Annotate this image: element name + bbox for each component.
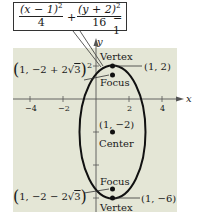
plus-sign: + — [67, 11, 76, 24]
bottom-vertex-point — [110, 196, 115, 201]
equation-box: (x − 1)2 4 + (y + 2)2 16 = 1 — [13, 2, 127, 31]
term1-denominator: 4 — [19, 17, 63, 29]
bottom-focus-label: Focus — [100, 176, 130, 187]
y-axis-label: y — [97, 36, 103, 47]
top-focus-coord: (1, −2 + 2√3) — [13, 63, 87, 77]
bottom-vertex-label: Vertex — [100, 202, 133, 213]
top-vertex-label: Vertex — [100, 51, 133, 62]
term2-numerator: (y + 2) — [78, 3, 116, 16]
equation-term-1: (x − 1)2 4 — [19, 4, 63, 29]
bottom-focus-point — [110, 187, 115, 192]
top-vertex-point — [110, 64, 115, 69]
center-label: Center — [99, 138, 134, 149]
y-tick-2: 2 — [87, 61, 92, 70]
x-axis-label: x — [186, 93, 192, 104]
bottom-focus-coord: (1, −2 − 2√3) — [13, 190, 87, 204]
top-vertex-coord: (1, 2) — [144, 61, 171, 72]
equals-one: = 1 — [113, 11, 126, 37]
x-tick-4: 4 — [160, 104, 165, 113]
x-tick-2: 2 — [127, 104, 132, 113]
bottom-vertex-coord: (1, −6) — [141, 193, 176, 204]
center-point — [110, 130, 115, 135]
x-axis-arrow-icon — [176, 97, 184, 102]
center-coord: (1, −2) — [99, 119, 134, 130]
term2-exponent: 2 — [116, 2, 120, 10]
term1-exponent: 2 — [58, 2, 62, 10]
term1-numerator: (x − 1) — [20, 3, 58, 16]
x-tick-neg4: −4 — [25, 104, 37, 113]
top-focus-label: Focus — [100, 77, 130, 88]
x-tick-neg2: −2 — [58, 104, 70, 113]
